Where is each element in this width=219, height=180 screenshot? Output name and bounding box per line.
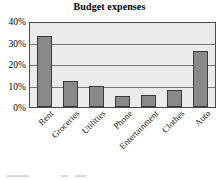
bar-rent[interactable] [37, 36, 52, 107]
y-axis-tick-label: 40% [9, 17, 26, 27]
bar-slot [161, 23, 187, 107]
y-axis-tick-label: 20% [9, 60, 26, 70]
bar-slot [32, 23, 58, 107]
bar-phone[interactable] [115, 96, 130, 107]
bar-slot [135, 23, 161, 107]
scan-artifact [3, 173, 123, 179]
chart-title: Budget expenses [0, 1, 219, 12]
plot-area [29, 22, 216, 108]
x-axis: RentGroceriesUtilitiesPhoneEntertainment… [29, 109, 216, 177]
bar-auto[interactable] [193, 51, 208, 107]
x-axis-tick-label: Phone [112, 109, 134, 131]
bar-groceries[interactable] [63, 81, 78, 107]
x-axis-tick-label: Rent [37, 109, 55, 127]
bar-utilities[interactable] [89, 86, 104, 108]
y-axis-tick-label: 30% [9, 39, 26, 49]
bar-slot [187, 23, 213, 107]
y-axis-tick-label: 10% [9, 82, 26, 92]
x-axis-tick-label: Groceries [50, 109, 81, 140]
bar-chart-figure: Budget expenses 40%30%20%10%0% RentGroce… [0, 0, 219, 180]
bar-clothes[interactable] [167, 90, 182, 107]
x-axis-tick-label: Auto [193, 109, 212, 128]
y-axis-tick-label: 0% [13, 103, 26, 113]
bar-slot [58, 23, 84, 107]
bar-slot [84, 23, 110, 107]
x-axis-tick-label: Clothes [160, 109, 186, 135]
bar-series [30, 23, 215, 107]
bar-entertainment[interactable] [141, 95, 156, 107]
x-axis-tick-label: Utilities [81, 109, 108, 136]
bar-slot [110, 23, 136, 107]
y-axis: 40%30%20%10%0% [0, 22, 27, 108]
